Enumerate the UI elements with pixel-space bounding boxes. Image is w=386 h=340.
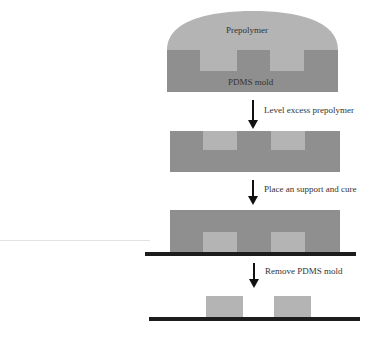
prepolymer-feature-1 xyxy=(203,232,237,252)
prepolymer-pocket-2 xyxy=(271,131,305,150)
step-label-1: Level excess prepolymer xyxy=(264,105,354,115)
arrow-down-icon xyxy=(252,100,254,122)
prepolymer-pocket-1 xyxy=(203,131,237,150)
faint-line-artifact xyxy=(0,240,150,241)
final-feature-1 xyxy=(206,296,243,317)
prepolymer-label: Prepolymer xyxy=(226,25,268,35)
pdms-mold-inverted xyxy=(170,210,340,252)
support-substrate xyxy=(145,252,356,256)
prepolymer-dome xyxy=(0,0,386,100)
arrow-head-icon xyxy=(248,196,258,205)
prepolymer-feature-2 xyxy=(271,232,305,252)
pdms-mold-label: PDMS mold xyxy=(228,77,273,87)
arrow-head-icon xyxy=(249,279,259,288)
pdms-mold-leveled xyxy=(170,131,340,172)
arrow-head-icon xyxy=(248,120,258,129)
step-label-3: Remove PDMS mold xyxy=(265,266,343,276)
support-substrate-final xyxy=(149,317,360,321)
step-label-2: Place an support and cure xyxy=(264,184,356,194)
final-feature-2 xyxy=(274,296,311,317)
